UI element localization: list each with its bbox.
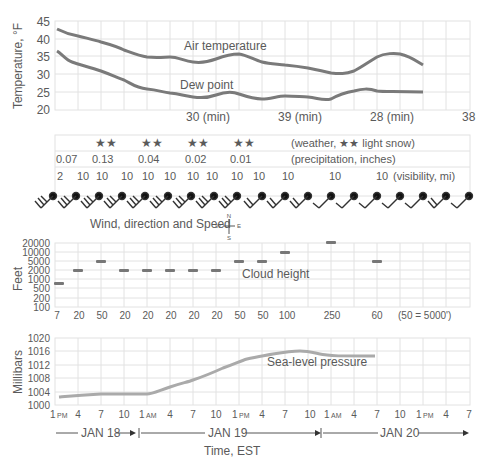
date-jan18: JAN 18	[81, 426, 121, 440]
time-tick: 1	[139, 409, 145, 420]
time-tick: 7	[374, 409, 380, 420]
wind-barb-icon	[196, 193, 218, 209]
visibility-value: 10	[121, 170, 133, 182]
wind-barb-icon	[127, 193, 149, 209]
visibility-value: 10	[142, 170, 154, 182]
pressure-label: Sea-level pressure	[267, 355, 367, 369]
precip-value: 0.04	[138, 153, 159, 165]
time-tick: 4	[75, 409, 81, 420]
precip-value: 0.13	[92, 153, 113, 165]
pressure-ytick: 1000	[28, 400, 51, 411]
weather-light-snow: ★★	[95, 136, 117, 150]
precip-value: 0.01	[230, 153, 251, 165]
visibility-row-label: (visibility, mi)	[393, 170, 455, 182]
precip-value: 0.07	[56, 153, 77, 165]
time-tick: 10	[118, 409, 130, 420]
cloud-xlabel: 20	[211, 310, 223, 321]
wind-barb-icon	[173, 193, 195, 209]
cloud-xlabel: 20	[165, 310, 177, 321]
wind-barb-icon	[451, 193, 473, 209]
visibility-value: 10	[376, 170, 388, 182]
wind-label: Wind, direction and Speed	[90, 217, 231, 231]
cloud-height-label: Cloud height	[242, 267, 310, 281]
time-tick: 7	[466, 409, 472, 420]
wind-barb-icon	[58, 193, 80, 209]
time-tick: 1	[50, 409, 56, 420]
cloud-height-markers	[54, 241, 382, 285]
time-tick: 10	[304, 409, 316, 420]
pressure-ytick: 1012	[28, 360, 51, 371]
time-tick: 7	[98, 409, 104, 420]
wind-barb-icon	[405, 193, 427, 209]
time-tick-suffix: AM	[331, 412, 342, 419]
wind-barb-icon	[104, 193, 126, 209]
wind-barb-icon	[244, 193, 266, 209]
cloud-axis-label: Feet	[11, 266, 25, 291]
pressure-axis-label: Millibars	[11, 350, 25, 394]
visibility-value: 10	[329, 170, 341, 182]
temp-ytick: 40	[37, 33, 51, 47]
precip-row-label: (precipitation, inches)	[291, 153, 396, 165]
observations-table: ★★ ★★ ★★ ★★ (weather, ★★ light snow) 0.0…	[55, 135, 470, 196]
time-tick: 4	[167, 409, 173, 420]
pressure-ytick: 1016	[28, 346, 51, 357]
cloud-xlabel: 60	[371, 310, 383, 321]
visibility-value: 10	[206, 170, 218, 182]
pressure-ytick: 1004	[28, 387, 51, 398]
temp-axis-label: Temperature, °F	[11, 23, 25, 109]
wind-barb-icon	[382, 193, 404, 209]
time-tick-suffix: PM	[239, 412, 250, 419]
wind-barb-icon	[313, 193, 335, 209]
wind-barb-icon	[35, 193, 57, 209]
wind-barb-icon	[150, 193, 172, 209]
visibility-value: 10	[187, 170, 199, 182]
min-annotation-2: 39 (min)	[278, 110, 322, 124]
visibility-value: 10	[282, 170, 294, 182]
svg-text:W: W	[215, 223, 221, 229]
wind-barbs-row	[35, 193, 473, 209]
time-tick: 1	[232, 409, 238, 420]
date-jan20: JAN 20	[380, 426, 420, 440]
time-tick: 1	[416, 409, 422, 420]
wind-barb-icon	[81, 193, 103, 209]
max-annotation-4: 38	[462, 110, 476, 124]
weather-chart-figure: 45 40 35 30 25 20 Temperature, °F Air te…	[0, 0, 490, 466]
cloud-height-panel: 20000 10000 5000 2000 1000 500 200 100 F…	[11, 238, 470, 321]
time-tick: 4	[443, 409, 449, 420]
temp-ytick: 20	[37, 103, 51, 117]
weather-light-snow: ★★	[141, 136, 163, 150]
cloud-xlabel: 20	[119, 310, 131, 321]
svg-text:E: E	[237, 223, 241, 229]
cloud-xlabel: 20	[188, 310, 200, 321]
pressure-ytick: 1020	[28, 333, 51, 344]
weather-row-label: (weather, ★★ light snow)	[291, 137, 415, 149]
cloud-note: (50 = 5000')	[398, 310, 451, 321]
temp-ytick: 45	[37, 15, 51, 29]
wind-barb-icon	[359, 193, 381, 209]
time-tick: 10	[394, 409, 406, 420]
pressure-panel: 1020 1016 1012 1008 1004 1000 Millibars …	[11, 333, 470, 411]
precip-value: 0.02	[185, 153, 206, 165]
wind-barb-icon	[428, 193, 450, 209]
pressure-ytick: 1008	[28, 373, 51, 384]
time-tick-suffix: PM	[423, 412, 434, 419]
time-tick: 4	[259, 409, 265, 420]
dew-point-label: Dew point	[180, 78, 234, 92]
temp-ytick: 25	[37, 86, 51, 100]
date-jan19: JAN 19	[208, 426, 248, 440]
visibility-value: 10	[253, 170, 265, 182]
temperature-grid	[55, 21, 470, 110]
time-tick-suffix: PM	[57, 412, 68, 419]
cloud-xlabel: 20	[73, 310, 85, 321]
cloud-xlabel: 250	[324, 310, 341, 321]
wind-barb-icon	[267, 193, 289, 209]
time-tick: 4	[351, 409, 357, 420]
temp-ytick: 30	[37, 68, 51, 82]
time-tick: 1	[324, 409, 330, 420]
time-tick: 7	[282, 409, 288, 420]
time-axis-label: Time, EST	[204, 444, 261, 458]
weather-light-snow: ★★	[233, 136, 255, 150]
svg-text:S: S	[227, 235, 231, 241]
visibility-value: 10	[96, 170, 108, 182]
visibility-value: 2	[57, 170, 63, 182]
